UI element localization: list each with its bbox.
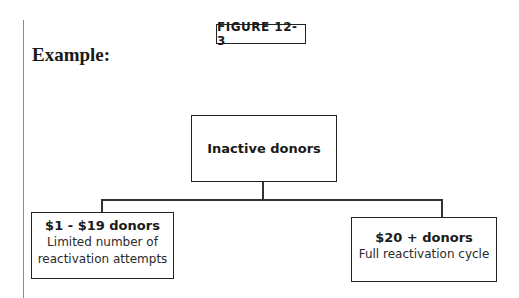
node-inactive-donors: Inactive donors xyxy=(191,115,337,182)
node-subtitle: reactivation attempts xyxy=(38,251,168,268)
margin-rule xyxy=(23,20,24,298)
connector-right-down xyxy=(441,199,443,218)
node-subtitle: Full reactivation cycle xyxy=(359,246,490,263)
example-heading: Example: xyxy=(32,44,110,66)
connector-horizontal xyxy=(101,199,442,201)
connector-root-down xyxy=(262,181,264,200)
node-title: Inactive donors xyxy=(207,141,321,156)
figure-label: FIGURE 12-3 xyxy=(216,24,306,44)
node-title: $1 - $19 donors xyxy=(45,217,160,234)
node-title: $20 + donors xyxy=(375,229,473,246)
node-subtitle: Limited number of xyxy=(47,234,158,251)
connector-left-down xyxy=(101,199,103,213)
node-low-donors: $1 - $19 donors Limited number of reacti… xyxy=(31,212,174,279)
node-high-donors: $20 + donors Full reactivation cycle xyxy=(351,217,497,282)
